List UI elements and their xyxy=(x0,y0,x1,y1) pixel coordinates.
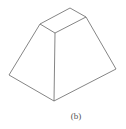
figure-caption: (b) xyxy=(68,111,84,121)
right-face xyxy=(54,17,116,101)
frustum-figure: (b) xyxy=(0,0,126,129)
top-face xyxy=(40,8,86,33)
frustum-drawing xyxy=(0,0,126,129)
left-face xyxy=(9,24,55,101)
